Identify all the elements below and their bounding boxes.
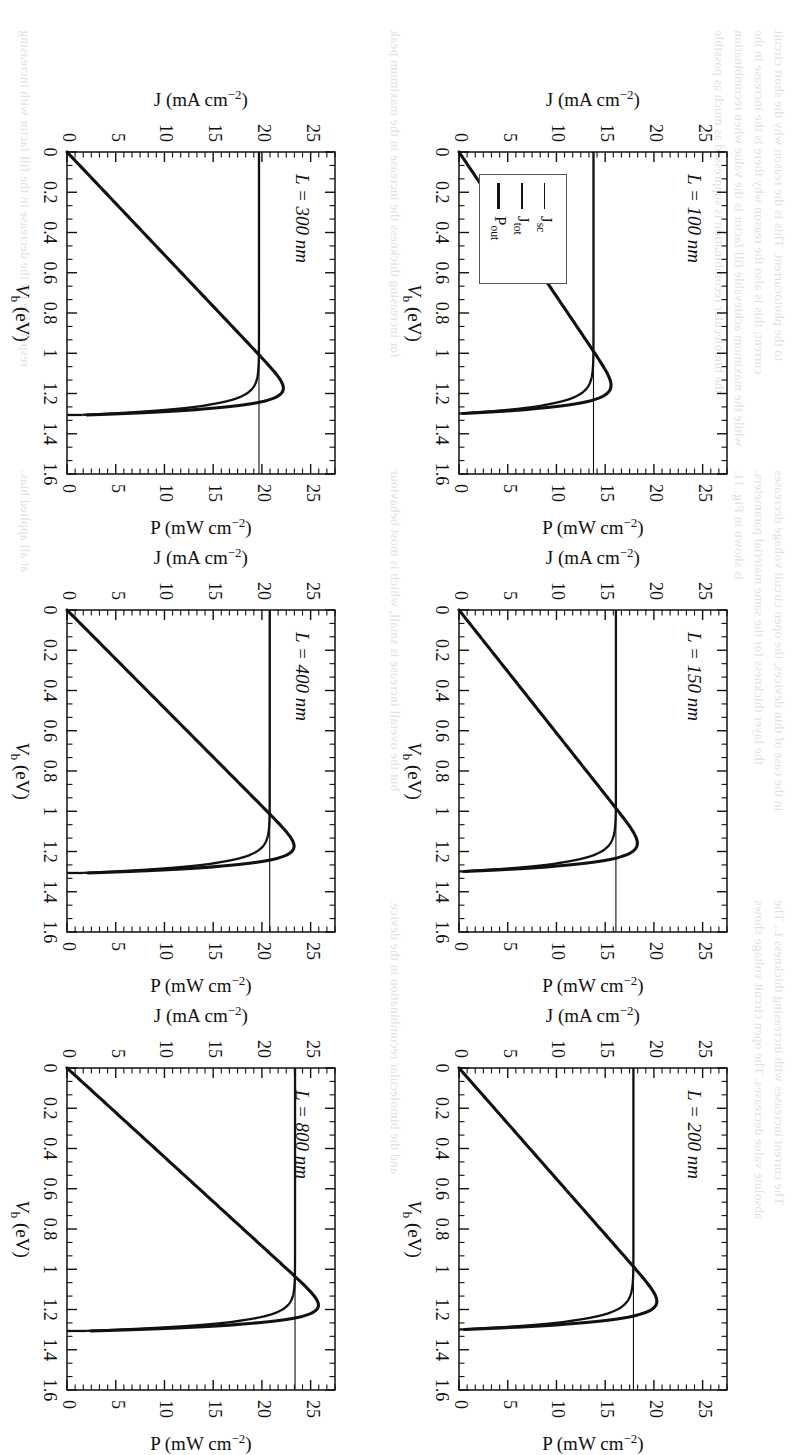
- y-right-tick-label: 25: [302, 1400, 323, 1432]
- y-left-tick-label: 15: [204, 1026, 225, 1058]
- panel-annotation: L = 800 nm: [291, 1090, 313, 1179]
- y-left-tick-label: 25: [302, 1026, 323, 1058]
- y-left-tick-label: 20: [253, 1026, 274, 1058]
- x-tick-label: 0: [39, 1054, 60, 1082]
- series-jtot: [86, 1068, 295, 1331]
- y-left-axis-title: J (mA cm−2): [126, 1003, 276, 1027]
- y-right-tick-label: 15: [204, 1400, 225, 1432]
- x-tick-label: 0.4: [39, 1135, 60, 1163]
- y-right-tick-label: 0: [58, 1400, 79, 1432]
- y-left-tick-label: 0: [58, 1026, 79, 1058]
- x-tick-label: 1.2: [39, 1296, 60, 1324]
- y-left-tick-label: 5: [107, 1026, 128, 1058]
- x-tick-label: 0.6: [39, 1175, 60, 1203]
- y-left-tick-label: 10: [155, 1026, 176, 1058]
- series-pout: [67, 1068, 318, 1331]
- x-tick-label: 1.4: [39, 1336, 60, 1364]
- y-right-axis-title: P (mW cm−2): [126, 1431, 276, 1455]
- y-right-tick-label: 10: [155, 1400, 176, 1432]
- x-tick-label: 0.2: [39, 1094, 60, 1122]
- y-right-tick-label: 20: [253, 1400, 274, 1432]
- x-tick-label: 1.6: [39, 1376, 60, 1404]
- x-axis-title: Vb (eV): [7, 1177, 33, 1281]
- x-tick-label: 0.8: [39, 1215, 60, 1243]
- x-tick-label: 1: [39, 1255, 60, 1283]
- y-right-tick-label: 5: [107, 1400, 128, 1432]
